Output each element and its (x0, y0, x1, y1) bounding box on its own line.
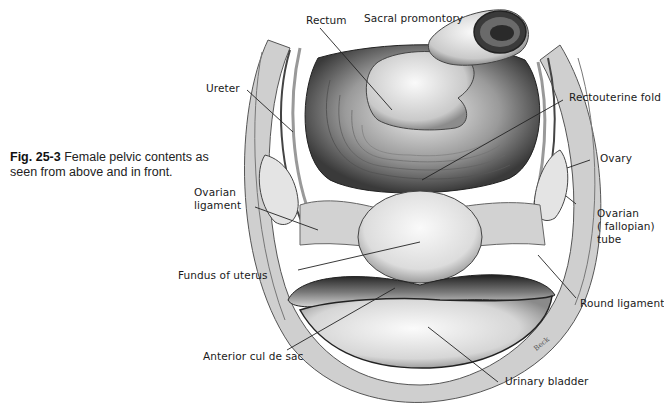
label-ovary: Ovary (600, 152, 632, 165)
label-rectouterine-fold: Rectouterine fold (569, 91, 661, 104)
figure-caption: Fig. 25-3 Female pelvic contents as seen… (10, 150, 220, 180)
label-ovarian-tube: Ovarian ( fallopian) tube (597, 207, 655, 246)
label-ureter: Ureter (206, 82, 240, 95)
label-fundus-of-uterus: Fundus of uterus (178, 269, 268, 282)
figure-number: Fig. 25-3 (10, 150, 61, 164)
label-ovarian-ligament: Ovarian ligament (194, 186, 241, 212)
label-rectum: Rectum (306, 14, 347, 27)
label-urinary-bladder: Urinary bladder (505, 375, 589, 388)
uterus (358, 191, 482, 283)
label-round-ligament: Round ligament (580, 297, 664, 310)
label-sacral-promontory: Sacral promontory (364, 12, 463, 25)
label-anterior-cul-de-sac: Anterior cul de sac (203, 350, 303, 363)
